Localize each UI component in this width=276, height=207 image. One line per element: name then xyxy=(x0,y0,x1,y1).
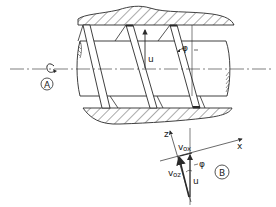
svg-text:ox: ox xyxy=(183,145,191,153)
barrel-top xyxy=(78,6,234,25)
screw-extruder-diagram: A u φ z x v ox v oz φ u xyxy=(0,0,276,207)
velocity-u-arrow: u xyxy=(145,30,154,68)
svg-text:A: A xyxy=(44,80,51,90)
velocity-vector-diagram: z x v ox v oz φ u xyxy=(160,128,243,205)
svg-text:oz: oz xyxy=(173,171,181,179)
svg-text:x: x xyxy=(237,141,243,151)
diagram-svg: A u φ z x v ox v oz φ u xyxy=(0,0,276,207)
svg-text:u: u xyxy=(148,54,154,64)
view-label-b: B xyxy=(215,165,229,179)
view-label-a: A xyxy=(41,78,53,90)
svg-text:z: z xyxy=(164,129,169,139)
svg-text:φ: φ xyxy=(199,159,205,169)
svg-text:φ: φ xyxy=(182,43,188,53)
svg-text:B: B xyxy=(219,168,225,178)
rotation-arrow-icon xyxy=(47,64,57,73)
svg-text:u: u xyxy=(193,176,199,186)
barrel-bottom xyxy=(83,108,232,124)
